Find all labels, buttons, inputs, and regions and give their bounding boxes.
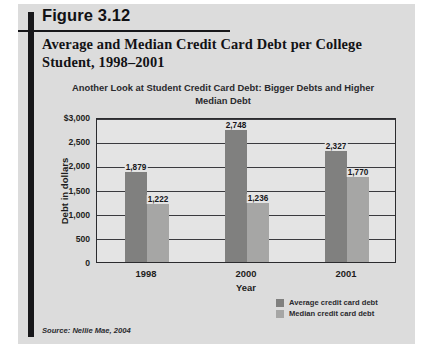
bar-2001-median [347,176,369,262]
y-axis-tick-label: $3,000 [34,113,90,123]
source-note: Source: Nellie Mae, 2004 [42,326,131,335]
y-axis-tick-label: 1,000 [34,210,90,220]
bar-value-label: 2,748 [225,121,248,130]
bar-2000-median [247,202,269,262]
legend-item: Average credit card debt [276,298,378,307]
figure-title: Average and Median Credit Card Debt per … [42,35,392,72]
legend-swatch-average [276,299,284,307]
legend-label: Median credit card debt [289,309,374,318]
bar-2001-average [325,150,347,262]
y-axis-tick-label: 0 [34,258,90,268]
plot-wrapper: Debt in dollars 05001,0001,5002,0002,500… [96,118,396,263]
legend-item: Median credit card debt [276,309,378,318]
plot-area: 1,8791,2222,7481,2362,3271,770 [96,118,396,263]
gridline [97,119,395,120]
y-axis-tick-labels: 05001,0001,5002,0002,500$3,000 [34,118,90,263]
bar-value-label: 1,236 [247,194,270,203]
figure-number: Figure 3.12 [42,6,130,25]
y-axis-tick-label: 500 [34,234,90,244]
legend-label: Average credit card debt [289,298,378,307]
bar-1998-median [147,203,169,262]
bar-value-label: 2,327 [325,142,348,151]
legend-swatch-median [276,310,284,318]
bar-1998-average [125,171,147,262]
y-axis-tick-label: 2,500 [34,137,90,147]
x-axis-tick-label-2000: 2000 [236,268,257,279]
chart-title: Another Look at Student Credit Card Debt… [58,82,388,107]
x-axis-tick-label-1998: 1998 [136,268,157,279]
bar-2000-average [225,129,247,262]
bar-value-label: 1,879 [125,163,148,172]
x-axis-tick-label-2001: 2001 [336,268,357,279]
y-axis-tick-label: 1,500 [34,186,90,196]
chart-legend: Average credit card debtMedian credit ca… [276,298,378,320]
bar-value-label: 1,222 [147,195,170,204]
figure-container: Figure 3.12 Average and Median Credit Ca… [18,4,415,344]
y-axis-tick-label: 2,000 [34,161,90,171]
x-axis-title: Year [96,282,396,293]
figure-number-underline [18,30,230,32]
bar-value-label: 1,770 [347,168,370,177]
